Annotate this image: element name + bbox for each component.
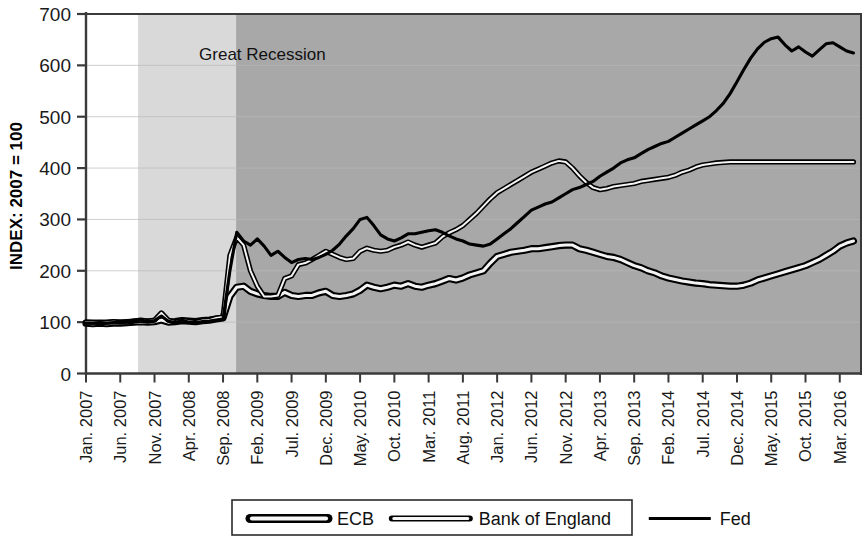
x-tick-label: Dec. 2014 (728, 391, 746, 466)
x-tick-label: Mar. 2016 (831, 391, 849, 464)
x-tick-label: May. 2010 (351, 391, 369, 467)
chart-legend: ECBBank of EnglandFed (232, 500, 751, 535)
shaded-band-post-crisis (236, 14, 860, 374)
y-tick-label: 700 (39, 4, 71, 25)
x-tick-label: May. 2015 (762, 391, 780, 467)
legend-label: Bank of England (479, 509, 611, 529)
x-tick-label: Oct. 2010 (385, 391, 403, 463)
legend-item-bank-of-england[interactable]: Bank of England (392, 509, 611, 529)
x-axis-ticks-group (86, 374, 840, 383)
x-tick-label: Nov. 2007 (146, 391, 164, 465)
x-tick-label: Jun. 2012 (522, 391, 540, 463)
x-tick-label: Oct. 2015 (796, 391, 814, 463)
chart-root: 0100200300400500600700 Great Recession I… (0, 0, 865, 536)
x-tick-label: Dec. 2009 (317, 391, 335, 466)
y-tick-label: 500 (39, 107, 71, 128)
x-tick-label: Jan. 2012 (488, 391, 506, 463)
x-tick-label: Feb. 2009 (248, 391, 266, 465)
y-axis-title: INDEX: 2007 = 100 (7, 122, 26, 270)
x-tick-label: Sep. 2013 (625, 391, 643, 466)
x-tick-label: Mar. 2011 (420, 391, 438, 463)
x-tick-label: Aug. 2011 (454, 391, 472, 465)
legend-item-fed[interactable]: Fed (649, 509, 751, 529)
legend-label: Fed (720, 509, 751, 529)
x-tick-label: Jan. 2007 (77, 391, 95, 463)
y-tick-label: 600 (39, 55, 71, 76)
x-tick-label: Nov. 2012 (557, 391, 575, 465)
central-bank-balance-sheet-chart: 0100200300400500600700 Great Recession I… (0, 0, 865, 536)
x-tick-label: Apr. 2008 (180, 391, 198, 462)
legend-item-ecb[interactable]: ECB (250, 509, 374, 529)
y-tick-label: 100 (39, 312, 71, 333)
great-recession-annotation: Great Recession (199, 45, 326, 64)
x-tick-label: Sep. 2008 (214, 391, 232, 466)
legend-label: ECB (337, 509, 374, 529)
x-axis-tick-labels-group: Jan. 2007Jun. 2007Nov. 2007Apr. 2008Sep.… (77, 391, 849, 467)
x-tick-label: Jul. 2014 (694, 391, 712, 458)
x-tick-label: Jul. 2009 (283, 391, 301, 458)
y-tick-label: 0 (60, 364, 71, 385)
x-tick-label: Jun. 2007 (111, 391, 129, 463)
y-tick-label: 400 (39, 158, 71, 179)
x-tick-label: Feb. 2014 (659, 391, 677, 465)
y-tick-label: 300 (39, 209, 71, 230)
y-tick-label: 200 (39, 261, 71, 282)
y-axis-ticks-group: 0100200300400500600700 (39, 4, 86, 385)
x-tick-label: Apr. 2013 (591, 391, 609, 462)
